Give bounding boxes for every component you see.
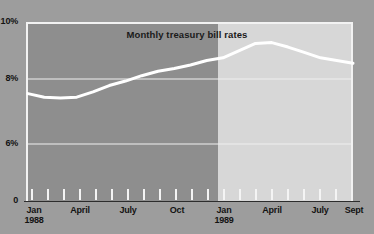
x-tick-line1: April <box>252 205 292 215</box>
chart-title: Monthly treasury bill rates <box>0 29 374 40</box>
x-tick-line1: Oct <box>157 205 197 215</box>
y-tick-label-10pct: 10% <box>0 16 18 26</box>
x-tick-line1: April <box>60 205 100 215</box>
x-tick-label-april-1988: April <box>60 205 100 215</box>
x-tick-label-july-1988: July <box>108 205 148 215</box>
x-tick-line1: Jan <box>204 205 244 215</box>
x-tick-line2: 1988 <box>14 215 54 225</box>
x-tick-label-jan-1989: Jan 1989 <box>204 205 244 225</box>
x-tick-label-april-1989: April <box>252 205 292 215</box>
plot-frame <box>26 22 353 201</box>
x-tick-label-oct-1988: Oct <box>157 205 197 215</box>
x-tick-line1: Sept <box>334 205 374 215</box>
x-tick-line2: 1989 <box>204 215 244 225</box>
x-tick-line1: Jan <box>14 205 54 215</box>
x-tick-line1: July <box>108 205 148 215</box>
y-tick-label-6pct: 6% <box>0 138 18 148</box>
y-tick-label-0: 0 <box>0 195 18 205</box>
x-tick-label-jan-1988: Jan 1988 <box>14 205 54 225</box>
y-tick-label-8pct: 8% <box>0 73 18 83</box>
chart-figure: Monthly treasury bill rates 10% 8% 6% 0 … <box>0 0 374 234</box>
x-tick-label-sept-1989: Sept <box>334 205 374 215</box>
